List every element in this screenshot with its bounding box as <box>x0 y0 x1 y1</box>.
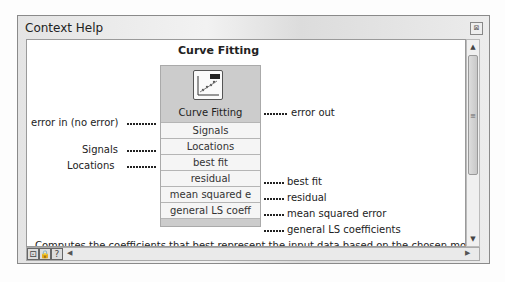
wire <box>264 230 284 232</box>
scroll-up-icon[interactable]: ▲ <box>467 41 479 53</box>
output-residual: residual <box>287 192 327 203</box>
wire <box>127 123 157 125</box>
detailed-help-button[interactable]: ? <box>51 248 63 260</box>
wire <box>127 150 157 152</box>
wire <box>264 198 284 200</box>
vertical-scrollbar[interactable]: ▲ ≡ ▼ <box>466 39 480 247</box>
lock-icon: 🔒 <box>40 250 50 259</box>
wire <box>264 182 284 184</box>
terminal-row: general LS coeff <box>161 202 260 218</box>
node-footer <box>161 218 260 226</box>
output-best-fit: best fit <box>287 176 322 187</box>
help-icon: ? <box>55 249 60 259</box>
output-mean-squared-error: mean squared error <box>287 208 386 219</box>
output-general-ls: general LS coefficients <box>287 224 401 235</box>
window-title: Context Help <box>25 21 103 35</box>
input-signals: Signals <box>82 144 118 155</box>
terminal-row: Signals <box>161 122 260 138</box>
scroll-down-icon[interactable]: ▼ <box>467 233 479 245</box>
wire <box>264 113 288 115</box>
function-node: Curve Fitting Signals Locations best fit… <box>160 65 261 227</box>
lock-button[interactable]: 🔒 <box>39 248 51 260</box>
scroll-right-icon[interactable]: ▶ <box>465 249 470 257</box>
close-icon[interactable]: ⊠ <box>470 22 483 35</box>
function-title: Curve Fitting <box>178 44 259 57</box>
input-locations: Locations <box>67 160 115 171</box>
description: Computes the coefficients that best repr… <box>35 240 466 247</box>
terminal-row: best fit <box>161 154 260 170</box>
terminals-icon: ⊡ <box>29 249 37 259</box>
wire <box>127 166 157 168</box>
node-name: Curve Fitting <box>161 107 260 118</box>
output-error-out: error out <box>291 107 335 118</box>
bottom-toolbar: ⊡ 🔒 ? ◀ ▶ <box>26 247 480 261</box>
terminal-row: Locations <box>161 138 260 154</box>
terminal-row: mean squared e <box>161 186 260 202</box>
wire <box>264 214 284 216</box>
context-help-window: Context Help ⊠ Curve Fitting Curve Fitti… <box>17 15 490 264</box>
curve-fitting-icon <box>193 70 223 100</box>
terminal-row: residual <box>161 170 260 186</box>
scroll-thumb[interactable]: ≡ <box>468 55 478 175</box>
show-optional-terminals-button[interactable]: ⊡ <box>27 248 39 260</box>
input-error-in: error in (no error) <box>31 117 118 128</box>
help-content: Curve Fitting Curve Fitting Signals Loca… <box>26 39 466 247</box>
scroll-left-icon[interactable]: ◀ <box>67 249 72 257</box>
